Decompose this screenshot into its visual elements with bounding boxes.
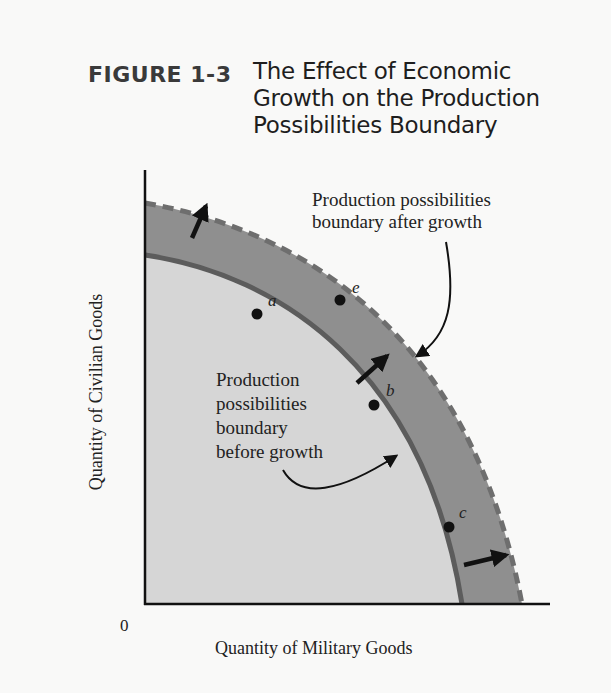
point-b-label: b: [386, 381, 395, 401]
point-b: [369, 400, 380, 411]
origin-label: 0: [120, 616, 129, 636]
annotation-before-line-1: Production: [216, 368, 323, 392]
point-c: [444, 522, 455, 533]
annotation-before-line-4: before growth: [216, 440, 323, 464]
x-axis-label: Quantity of Military Goods: [215, 638, 412, 659]
annotation-before-line-2: possibilities: [216, 392, 323, 416]
callout-arrow-after-icon: [417, 242, 450, 356]
point-c-label: c: [459, 503, 467, 523]
y-axis-label-text: Quantity of Civilian Goods: [86, 294, 107, 491]
annotation-after-growth: Production possibilities boundary after …: [312, 189, 491, 233]
point-a: [252, 309, 263, 320]
annotation-before-line-3: boundary: [216, 416, 323, 440]
annotation-after-line-1: Production possibilities: [312, 189, 491, 211]
point-e-label: e: [352, 278, 360, 298]
annotation-before-growth: Production possibilities boundary before…: [216, 368, 323, 464]
point-e: [335, 295, 346, 306]
point-a-label: a: [268, 291, 277, 311]
annotation-after-line-2: boundary after growth: [312, 211, 491, 233]
